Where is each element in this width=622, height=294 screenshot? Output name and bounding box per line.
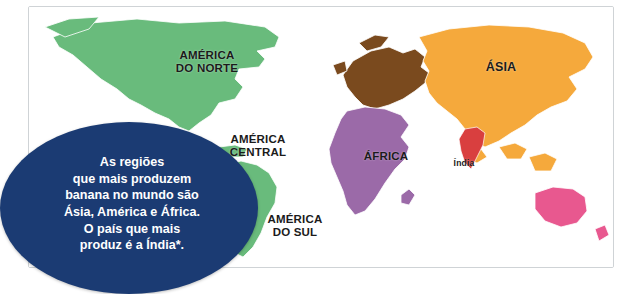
map-figure: AMÉRICA DO NORTE AMÉRICA CENTRAL AMÉRICA…: [0, 0, 622, 294]
label-america-do-norte: AMÉRICA DO NORTE: [147, 49, 267, 75]
label-asia: ÁSIA: [466, 60, 536, 74]
callout-bubble: As regiões que mais produzem banana no m…: [0, 122, 258, 294]
callout-text: As regiões que mais produzem banana no m…: [25, 154, 240, 254]
label-india: Índia: [434, 159, 494, 169]
label-africa: ÁFRICA: [347, 150, 425, 163]
